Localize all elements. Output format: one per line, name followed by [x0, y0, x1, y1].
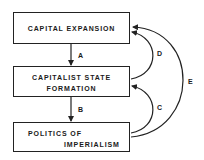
node-label-line2: IMPERIALISM	[64, 141, 120, 148]
node-capital-expansion: CAPITAL EXPANSION	[13, 12, 130, 44]
edge-e-arrow	[131, 27, 183, 137]
edge-label-c: C	[157, 104, 162, 111]
node-label-line1: CAPITALIST STATE	[14, 74, 129, 81]
edge-label-b: B	[78, 106, 83, 113]
node-politics-of-imperialism: POLITICS OF IMPERIALISM	[13, 122, 130, 152]
node-capitalist-state-formation: CAPITALIST STATE FORMATION	[13, 66, 130, 97]
node-label: CAPITAL EXPANSION	[28, 25, 116, 32]
diagram-canvas: CAPITAL EXPANSION CAPITALIST STATE FORMA…	[0, 0, 204, 160]
node-label-line1: POLITICS OF	[28, 130, 82, 137]
edge-d-arrow	[131, 32, 153, 79]
node-label-line2: FORMATION	[14, 85, 129, 92]
edge-label-e: E	[188, 78, 193, 85]
edge-label-a: A	[78, 52, 83, 59]
edge-c-arrow	[131, 86, 153, 133]
edge-label-d: D	[157, 50, 162, 57]
